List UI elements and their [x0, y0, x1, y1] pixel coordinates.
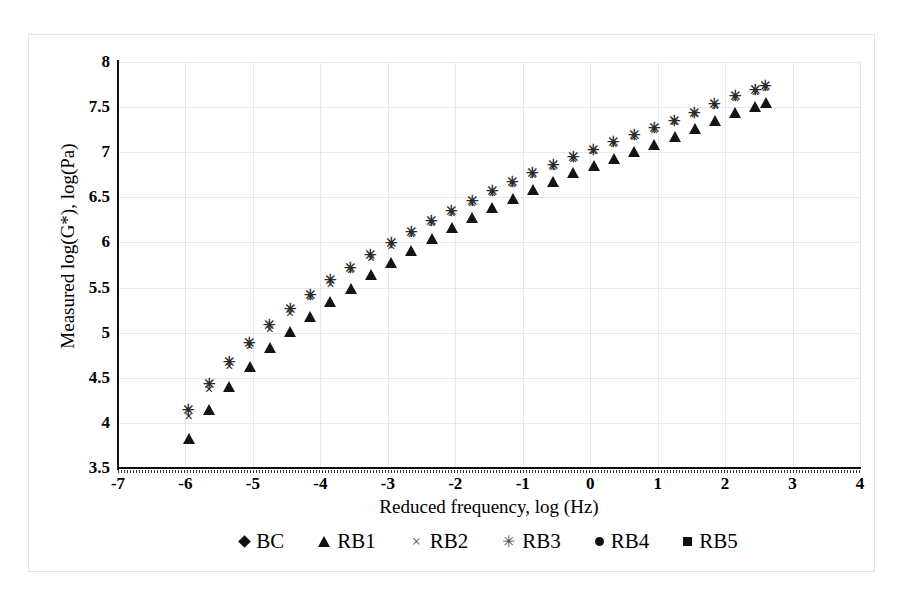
data-point-rb3: ✳: [263, 316, 276, 334]
y-tick-label: 5.5: [89, 278, 110, 298]
star-marker-icon: ✳: [502, 535, 515, 548]
data-point-rb3: ✳: [587, 141, 600, 159]
y-tick-label: 5: [102, 323, 111, 343]
square-marker-icon: [683, 537, 692, 546]
legend-item-bc[interactable]: BC: [240, 529, 284, 554]
y-tick-label: 7: [102, 142, 111, 162]
data-point-rb3: ✳: [688, 104, 701, 122]
data-point-rb3: ✳: [182, 401, 195, 419]
gridline-horizontal: [118, 152, 860, 153]
y-axis-ticks: 3.544.555.566.577.58: [58, 62, 110, 468]
gridline-horizontal: [118, 333, 860, 334]
legend-item-rb4[interactable]: RB4: [595, 529, 650, 554]
legend-item-rb5[interactable]: RB5: [683, 529, 738, 554]
y-tick-label: 4: [102, 413, 111, 433]
gridline-vertical: [320, 62, 321, 468]
legend-item-rb2[interactable]: ×RB2: [410, 529, 469, 554]
legend-label: RB4: [611, 529, 650, 554]
x-axis-line: [117, 467, 861, 469]
gridline-vertical: [455, 62, 456, 468]
gridline-vertical: [253, 62, 254, 468]
chart-figure: Measured log(G*), log(Pa) 3.544.555.566.…: [0, 0, 904, 599]
x-tick-label: -5: [246, 474, 260, 494]
y-axis-line: [117, 60, 119, 470]
y-tick-label: 6.5: [89, 187, 110, 207]
x-tick-label: -2: [448, 474, 462, 494]
gridline-horizontal: [118, 423, 860, 424]
x-axis-tick-band: [118, 470, 860, 473]
legend-label: RB1: [337, 529, 376, 554]
data-point-rb3: ✳: [284, 300, 297, 318]
gridline-vertical: [860, 62, 861, 468]
x-tick-label: 0: [586, 474, 595, 494]
gridline-vertical: [725, 62, 726, 468]
y-tick-label: 3.5: [89, 458, 110, 478]
data-point-rb3: ✳: [304, 286, 317, 304]
x-tick-label: 4: [856, 474, 865, 494]
gridline-vertical: [793, 62, 794, 468]
x-tick-label: -4: [313, 474, 327, 494]
data-point-rb3: ✳: [486, 182, 499, 200]
data-point-rb3: ✳: [607, 133, 620, 151]
x-tick-label: 1: [653, 474, 662, 494]
legend-item-rb3[interactable]: ✳RB3: [502, 529, 561, 554]
data-point-rb3: ✳: [344, 259, 357, 277]
data-point-rb3: ✳: [324, 271, 337, 289]
plot-area: ××××××××××××××××××××××××××××××✳✳✳✳✳✳✳✳✳✳…: [118, 62, 860, 468]
x-axis-label: Reduced frequency, log (Hz): [118, 496, 860, 518]
data-point-rb3: ✳: [364, 246, 377, 264]
x-tick-label: 2: [721, 474, 730, 494]
data-point-rb3: ✳: [668, 112, 681, 130]
data-point-rb3: ✳: [648, 119, 661, 137]
y-tick-label: 6: [102, 232, 111, 252]
data-point-rb3: ✳: [708, 95, 721, 113]
gridline-horizontal: [118, 62, 860, 63]
legend-label: RB5: [699, 529, 738, 554]
data-point-rb3: ✳: [385, 234, 398, 252]
data-point-rb3: ✳: [466, 192, 479, 210]
legend-label: RB3: [522, 529, 561, 554]
data-point-rb3: ✳: [759, 77, 772, 95]
data-point-rb3: ✳: [729, 87, 742, 105]
gridline-vertical: [590, 62, 591, 468]
legend-label: RB2: [430, 529, 469, 554]
y-tick-label: 4.5: [89, 368, 110, 388]
plot-background: [118, 62, 860, 468]
data-point-rb3: ✳: [628, 126, 641, 144]
legend-item-rb1[interactable]: RB1: [318, 529, 376, 554]
y-tick-label: 7.5: [89, 97, 110, 117]
gridline-horizontal: [118, 242, 860, 243]
data-point-rb3: ✳: [405, 223, 418, 241]
data-point-rb3: ✳: [567, 148, 580, 166]
x-marker-icon: ×: [410, 535, 423, 548]
x-tick-label: -6: [178, 474, 192, 494]
x-tick-label: -7: [111, 474, 125, 494]
diamond-marker-icon: [238, 535, 251, 548]
gridline-vertical: [523, 62, 524, 468]
triangle-marker-icon: [318, 536, 330, 547]
data-point-rb3: ✳: [506, 173, 519, 191]
data-point-rb3: ✳: [547, 156, 560, 174]
data-point-rb3: ✳: [445, 202, 458, 220]
circle-marker-icon: [595, 537, 604, 546]
data-point-rb3: ✳: [223, 353, 236, 371]
data-point-rb3: ✳: [526, 164, 539, 182]
gridline-horizontal: [118, 288, 860, 289]
data-point-rb3: ✳: [203, 375, 216, 393]
x-tick-label: -1: [516, 474, 530, 494]
data-point-rb3: ✳: [425, 212, 438, 230]
data-point-rb3: ✳: [243, 334, 256, 352]
y-tick-label: 8: [102, 52, 111, 72]
chart-legend: BCRB1×RB2✳RB3RB4RB5: [118, 524, 860, 558]
legend-label: BC: [256, 529, 284, 554]
x-tick-label: 3: [788, 474, 797, 494]
x-tick-label: -3: [381, 474, 395, 494]
